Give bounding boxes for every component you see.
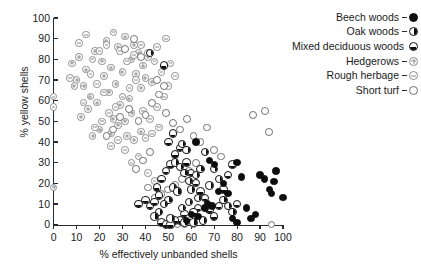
data-point-short	[148, 99, 156, 107]
data-point-hedge	[89, 132, 97, 140]
data-point-short	[217, 153, 225, 161]
legend-leader-line	[402, 17, 407, 18]
x-tick-label: 100	[270, 232, 296, 243]
open-circle-icon	[409, 86, 418, 95]
data-point-hedge	[100, 72, 108, 80]
data-point-rough	[100, 89, 108, 97]
data-point-oak	[205, 181, 213, 189]
data-point-rough	[151, 58, 159, 66]
data-point-oak	[201, 148, 209, 156]
data-point-rough	[66, 74, 74, 82]
data-point-oak	[166, 214, 174, 222]
data-point-short	[162, 109, 170, 117]
y-tick-mark	[54, 141, 58, 142]
x-tick-mark	[282, 225, 283, 229]
legend: Beech woodsOak woodsMixed deciduous wood…	[300, 10, 418, 98]
data-point-rough	[123, 58, 131, 66]
circle-plus-icon	[409, 57, 418, 66]
data-point-short	[130, 35, 138, 43]
data-point-beech	[224, 190, 231, 197]
y-tick-mark	[54, 79, 58, 80]
data-point-rough	[107, 142, 115, 150]
data-point-short	[137, 53, 145, 61]
data-point-rough	[87, 70, 95, 78]
data-point-hedge	[107, 64, 115, 72]
y-tick-mark	[54, 203, 58, 204]
data-point-oak	[173, 187, 181, 195]
data-point-beech	[268, 190, 275, 197]
data-point-hedge	[68, 60, 76, 68]
data-point-beech	[261, 175, 268, 182]
data-point-hedge	[126, 95, 134, 103]
x-tick-mark	[53, 225, 54, 229]
data-point-mixed	[233, 200, 241, 208]
data-point-hedge	[137, 84, 145, 92]
data-point-short	[160, 82, 168, 90]
x-tick-mark	[259, 225, 260, 229]
legend-item-label: Short turf	[356, 85, 399, 96]
data-point-rough	[167, 60, 175, 68]
data-point-rough	[103, 41, 111, 49]
data-point-rough	[82, 31, 90, 39]
filled-circle-icon	[409, 13, 418, 22]
y-tick-label: 10	[24, 199, 50, 210]
data-point-rough	[93, 80, 101, 88]
data-point-mixed	[160, 61, 168, 69]
x-tick-mark	[214, 225, 215, 229]
data-point-hedge	[130, 136, 138, 144]
data-point-hedge	[84, 105, 92, 113]
circle-dash-icon	[409, 71, 418, 80]
data-point-oak	[196, 165, 204, 173]
legend-item-oak: Oak woods	[300, 25, 418, 40]
legend-item-label: Hedgerows	[346, 56, 399, 67]
data-point-beech	[233, 219, 240, 226]
x-axis-title: % effectively unbanded shells	[53, 248, 284, 260]
data-point-beech	[194, 213, 201, 220]
data-point-rough	[75, 39, 83, 47]
data-point-short	[265, 128, 273, 136]
data-point-hedge	[75, 53, 83, 61]
data-point-mixed	[169, 129, 177, 137]
data-point-oak	[182, 146, 190, 154]
bottom-half-filled-circle-icon	[409, 42, 418, 51]
data-point-rough	[162, 35, 170, 43]
data-point-mixed	[155, 191, 163, 199]
right-half-filled-circle-icon	[409, 27, 418, 36]
data-point-hedge	[98, 58, 106, 66]
legend-item-label: Mixed deciduous woods	[292, 41, 404, 52]
data-point-hedge	[93, 99, 101, 107]
x-tick-mark	[122, 225, 123, 229]
legend-item-rough: Rough herbage	[300, 68, 418, 83]
data-point-short	[132, 165, 140, 173]
data-point-short	[139, 157, 147, 165]
data-point-rough	[110, 29, 118, 37]
data-point-oak	[180, 169, 188, 177]
data-point-rough	[155, 124, 163, 132]
data-point-beech	[270, 178, 277, 185]
legend-item-short: Short turf	[300, 83, 418, 98]
data-point-short	[261, 107, 269, 115]
data-point-short	[169, 119, 177, 127]
data-point-rough	[142, 134, 150, 142]
data-point-beech	[215, 188, 222, 195]
data-point-hedge	[77, 113, 85, 121]
data-point-mixed	[153, 183, 161, 191]
data-point-short	[210, 146, 218, 154]
data-point-beech	[243, 204, 250, 211]
data-point-short	[144, 184, 152, 192]
data-point-rough	[137, 41, 145, 49]
y-axis-title: % yellow shells	[18, 32, 30, 172]
data-point-beech	[192, 138, 199, 145]
legend-leader-line	[402, 75, 407, 76]
data-point-rough	[126, 84, 134, 92]
data-point-mixed	[164, 138, 172, 146]
y-tick-mark	[54, 121, 58, 122]
legend-item-mixed: Mixed deciduous woods	[300, 39, 418, 54]
y-axis-line	[53, 18, 54, 226]
data-point-rough	[121, 146, 129, 154]
data-point-rough	[91, 124, 99, 132]
data-point-beech	[272, 167, 279, 174]
data-point-short	[268, 221, 276, 229]
data-point-beech	[238, 173, 245, 180]
data-point-short	[121, 45, 129, 53]
